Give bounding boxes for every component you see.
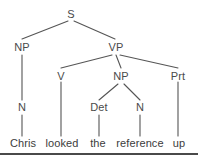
baseline-rule — [0, 153, 198, 155]
tree-leaf-looked: looked — [45, 138, 78, 149]
tree-leaf-chris: Chris — [10, 138, 36, 149]
tree-node-np-object: NP — [113, 71, 128, 82]
tree-node-det: Det — [90, 102, 107, 113]
np-object-to-n — [124, 84, 140, 100]
s-to-vp — [74, 21, 115, 39]
syntax-tree-figure: S NP VP N V NP Prt Det N Chris looked th… — [0, 0, 198, 160]
s-to-np-subject — [22, 21, 68, 39]
tree-node-n-subject: N — [18, 102, 26, 113]
vp-to-np-object — [116, 55, 121, 68]
tree-leaf-reference: reference — [116, 138, 163, 149]
tree-leaf-the: the — [90, 138, 106, 149]
tree-node-prt: Prt — [171, 71, 185, 82]
tree-node-n-object: N — [136, 102, 144, 113]
tree-leaf-up: up — [173, 138, 185, 149]
tree-node-v: V — [57, 71, 64, 82]
vp-to-prt — [120, 55, 178, 68]
tree-node-np-subject: NP — [14, 42, 29, 53]
tree-node-s: S — [67, 9, 74, 20]
np-object-to-det — [99, 84, 118, 100]
vp-to-v — [61, 55, 112, 68]
tree-node-vp: VP — [109, 42, 124, 53]
